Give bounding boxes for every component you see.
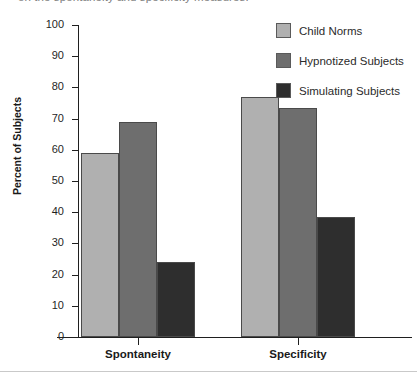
- y-axis-tick-label: 50: [30, 174, 64, 186]
- y-axis-tick-label: 80: [30, 80, 64, 92]
- x-axis-line: [57, 337, 412, 338]
- bar: [241, 97, 279, 337]
- bar: [317, 217, 355, 337]
- y-axis-tick-label: 100: [30, 18, 64, 30]
- x-axis-group-label: Specificity: [228, 348, 368, 360]
- y-axis-tick-label: 90: [30, 49, 64, 61]
- y-axis-tick-label: 10: [30, 299, 64, 311]
- y-axis-tick-label: 20: [30, 268, 64, 280]
- y-axis-tick-label: 0: [30, 330, 64, 342]
- y-axis-tick-label: 70: [30, 112, 64, 124]
- bar: [81, 153, 119, 337]
- x-axis-group-label: Spontaneity: [68, 348, 208, 360]
- bar: [157, 262, 195, 337]
- x-axis-tick-mark: [138, 338, 139, 345]
- x-axis-tick-mark: [298, 338, 299, 345]
- y-axis-title: Percent of Subjects: [11, 81, 23, 211]
- y-axis-line: [78, 25, 79, 338]
- y-axis-tick-label: 60: [30, 143, 64, 155]
- y-axis-tick-label: 30: [30, 236, 64, 248]
- bar: [119, 122, 157, 337]
- bottom-divider: [0, 371, 417, 372]
- bar-chart-plot: Percent of Subjects 10090807060504030201…: [0, 0, 417, 378]
- y-axis-tick-label: 40: [30, 205, 64, 217]
- bar: [279, 108, 317, 337]
